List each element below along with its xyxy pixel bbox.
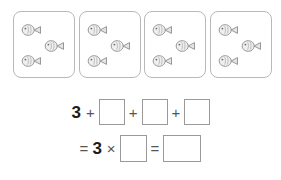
fish-icon (87, 23, 108, 37)
worksheet-canvas: 3 + + + = 3 × = (0, 0, 281, 180)
fish-card-1[interactable] (13, 11, 75, 78)
answer-blank-1[interactable] (99, 99, 125, 125)
fish-icon (87, 54, 108, 68)
answer-blank-2[interactable] (142, 99, 168, 125)
fish-icon (218, 23, 239, 37)
fish-card-row (13, 11, 272, 78)
fish-icon (152, 54, 173, 68)
answer-blank-3[interactable] (184, 99, 210, 125)
fish-icon (44, 39, 65, 53)
fish-icon (175, 39, 196, 53)
times-operator: × (103, 141, 120, 156)
fish-card-3[interactable] (144, 11, 206, 78)
answer-blank-product[interactable] (163, 135, 201, 162)
answer-blank-factor[interactable] (120, 135, 147, 162)
fish-icon (21, 54, 42, 68)
plus-operator-3: + (168, 105, 185, 120)
plus-operator-1: + (82, 105, 99, 120)
fish-card-2[interactable] (79, 11, 141, 78)
equation-row-multiplication: = 3 × = (0, 132, 281, 164)
addend-first: 3 (71, 104, 82, 121)
equation-row-addition: 3 + + + (0, 98, 281, 126)
equals-operator-lead: = (80, 141, 92, 156)
fish-icon (152, 23, 173, 37)
fish-icon (218, 54, 239, 68)
equals-operator: = (147, 141, 164, 156)
fish-icon (241, 39, 262, 53)
fish-icon (21, 23, 42, 37)
multiplication-factor: 3 (91, 140, 102, 157)
fish-card-4[interactable] (210, 11, 272, 78)
fish-icon (110, 39, 131, 53)
plus-operator-2: + (125, 105, 142, 120)
